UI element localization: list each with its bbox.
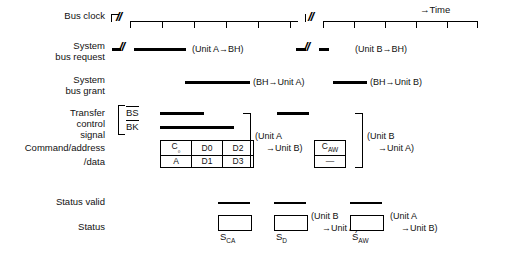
bus-request-b-break: // bbox=[304, 42, 309, 52]
table-row: — bbox=[315, 155, 346, 167]
cell-d0: D0 bbox=[192, 141, 223, 156]
clock-tick bbox=[162, 21, 163, 28]
row-label-system-bus-grant-line1: System bbox=[20, 74, 105, 85]
bs-pulse-a bbox=[160, 112, 204, 115]
row-label-transfer-line2: control bbox=[20, 118, 105, 129]
table-row: A D1 D3 bbox=[161, 155, 254, 167]
row-label-system-bus-request-line2: bus request bbox=[20, 51, 105, 62]
clock-baseline-segment-2 bbox=[323, 21, 478, 22]
clock-tick bbox=[130, 21, 131, 28]
table-row: C₀ D0 D2 bbox=[161, 141, 254, 156]
cell-command-aw: CAW bbox=[315, 141, 346, 156]
control-signal-bk-label: BK bbox=[126, 120, 139, 132]
transfer-b-annotation-line1: (Unit B bbox=[367, 131, 395, 142]
status-valid-pulse-2 bbox=[274, 202, 306, 204]
row-label-system-bus-request-line1: System bbox=[20, 40, 105, 51]
row-label-transfer-line1: Transfer bbox=[20, 107, 105, 118]
bus-grant-a-annotation: (BH→Unit A) bbox=[253, 77, 305, 88]
clock-tick bbox=[323, 21, 324, 28]
status-box-saw bbox=[350, 215, 384, 231]
clock-tick bbox=[194, 21, 195, 28]
bus-request-b-annotation: (Unit B→BH) bbox=[355, 44, 407, 55]
clock-tick bbox=[447, 21, 448, 28]
clock-break-left: // bbox=[116, 12, 121, 22]
transfer-signal-bracket bbox=[118, 105, 125, 135]
clock-break-mid: // bbox=[308, 12, 313, 22]
control-signal-bs-label: BS bbox=[126, 106, 139, 118]
bs-overline-text: BS bbox=[126, 106, 139, 118]
bus-grant-a-pulse bbox=[185, 81, 250, 84]
status-valid-pulse-3 bbox=[350, 202, 382, 204]
cell-command: C₀ bbox=[161, 141, 192, 156]
cell-d1: D1 bbox=[192, 155, 223, 167]
cell-address: A bbox=[161, 155, 192, 167]
status-label-sd: SD bbox=[276, 232, 287, 246]
status-b-annotation-line1: (Unit B bbox=[311, 211, 339, 222]
status-a-annotation-line2: →Unit B) bbox=[401, 223, 438, 234]
transfer-a-annotation-line2: →Unit B) bbox=[266, 143, 303, 154]
clock-tick bbox=[477, 21, 478, 28]
clock-tick bbox=[226, 21, 227, 28]
row-label-command-address-line1: Command/address bbox=[8, 142, 105, 153]
status-a-annotation-line1: (Unit A bbox=[390, 211, 417, 222]
table-row: CAW bbox=[315, 141, 346, 156]
transfer-a-annotation-line1: (Unit A bbox=[255, 131, 282, 142]
status-valid-pulse-1 bbox=[218, 202, 250, 204]
status-label-sca: SCA bbox=[220, 232, 235, 246]
transfer-a-group-bracket bbox=[243, 113, 251, 168]
clock-tick bbox=[416, 21, 417, 28]
bus-request-a-pulse bbox=[134, 48, 186, 51]
clock-tick bbox=[290, 21, 291, 28]
row-label-transfer-line3: signal bbox=[20, 129, 105, 140]
status-label-saw: SAW bbox=[352, 232, 369, 246]
row-label-status-valid: Status valid bbox=[20, 196, 105, 207]
clock-tick bbox=[385, 21, 386, 28]
data-table-unit-a: C₀ D0 D2 A D1 D3 bbox=[160, 140, 254, 168]
bus-request-b-stub-right bbox=[319, 48, 329, 51]
time-axis-label: →Time bbox=[420, 5, 450, 16]
bus-request-a-annotation: (Unit A→BH) bbox=[192, 44, 244, 55]
timing-diagram-canvas: Bus clock System bus request System bus … bbox=[0, 0, 508, 255]
data-table-unit-b: CAW — bbox=[314, 140, 346, 168]
cell-empty: — bbox=[315, 155, 346, 167]
bk-pulse-a bbox=[160, 126, 234, 129]
status-box-sd bbox=[274, 215, 308, 231]
row-label-command-address-line2: /data bbox=[8, 156, 105, 167]
bus-grant-b-pulse bbox=[333, 81, 367, 84]
bus-grant-b-annotation: (BH→Unit B) bbox=[370, 77, 422, 88]
row-label-system-bus-grant-line2: bus grant bbox=[20, 85, 105, 96]
bus-request-a-break: // bbox=[119, 42, 124, 52]
row-label-bus-clock: Bus clock bbox=[20, 10, 105, 21]
clock-baseline-segment-1 bbox=[130, 21, 298, 22]
clock-tick bbox=[258, 21, 259, 28]
status-box-sca bbox=[218, 215, 252, 231]
bk-overline-text: BK bbox=[126, 120, 139, 132]
clock-tick bbox=[354, 21, 355, 28]
clock-mid-riser bbox=[305, 14, 306, 22]
bs-pulse-b bbox=[277, 112, 309, 115]
transfer-b-group-bracket bbox=[355, 113, 363, 168]
row-label-status: Status bbox=[20, 221, 105, 232]
transfer-b-annotation-line2: →Unit A) bbox=[378, 143, 414, 154]
clock-left-riser bbox=[111, 14, 112, 22]
